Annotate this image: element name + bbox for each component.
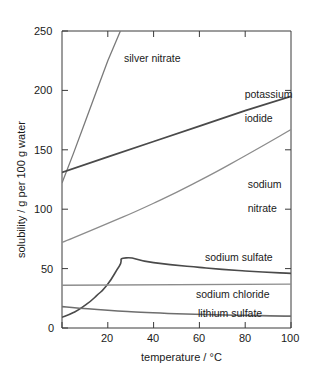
curve-silver-nitrate xyxy=(62,31,120,183)
y-tick-label-150: 150 xyxy=(34,145,52,156)
x-tick-label-80: 80 xyxy=(239,333,251,344)
x-tick-label-100: 100 xyxy=(281,333,299,344)
series-label-sodium-chloride: sodium chloride xyxy=(196,288,270,300)
x-tick-label-40: 40 xyxy=(147,333,159,344)
y-tick-label-100: 100 xyxy=(34,204,52,215)
y-tick-label-0: 0 xyxy=(48,323,54,334)
x-tick-label-60: 60 xyxy=(193,333,205,344)
series-label-silver-nitrate: silver nitrate xyxy=(124,52,181,64)
x-axis-ticks-top xyxy=(108,31,245,37)
y-tick-label-200: 200 xyxy=(34,85,52,96)
curve-sodium-chloride xyxy=(62,284,291,285)
potassium-iodide-line-1: potassium xyxy=(245,88,293,100)
series-label-lithium-sulfate: lithium sulfate xyxy=(198,307,262,319)
y-tick-label-50: 50 xyxy=(41,264,53,275)
series-label-sodium-sulfate: sodium sulfate xyxy=(205,251,273,263)
series-label-potassium-iodide: potassium iodide xyxy=(233,76,293,136)
x-axis-title: temperature / °C xyxy=(141,352,222,363)
x-axis-ticks xyxy=(62,322,291,328)
y-axis-title: solubility / g per 100 g water xyxy=(16,121,27,258)
sodium-nitrate-line-1: sodium xyxy=(248,178,282,190)
series-label-sodium-nitrate: sodium nitrate xyxy=(236,166,282,226)
potassium-iodide-line-2: iodide xyxy=(245,112,273,124)
x-tick-label-20: 20 xyxy=(101,333,113,344)
solubility-chart-figure: 250 200 150 100 50 0 0 20 40 60 80 100 t… xyxy=(0,0,315,383)
sodium-nitrate-line-2: nitrate xyxy=(248,202,277,214)
y-tick-label-250: 250 xyxy=(34,26,52,37)
